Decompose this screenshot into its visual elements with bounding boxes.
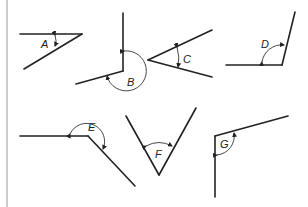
angle-label-e: E (88, 121, 96, 133)
angle-arc-c (177, 47, 179, 67)
angle-g: G (215, 116, 288, 197)
angle-label-b: B (127, 76, 134, 88)
angles-diagram: A B C D E F G (0, 0, 308, 207)
angle-f: F (126, 108, 196, 175)
angle-b: B (76, 13, 146, 91)
angle-label-f: F (155, 148, 163, 160)
angle-label-d: D (261, 38, 269, 50)
angle-c: C (148, 30, 212, 77)
angle-e: E (20, 121, 135, 186)
angle-arc-f (146, 143, 172, 147)
angle-d: D (226, 12, 295, 65)
angle-a: A (20, 34, 82, 69)
angle-label-g: G (220, 138, 229, 150)
angle-arc-a (55, 35, 56, 46)
angle-label-c: C (183, 53, 191, 65)
angle-label-a: A (40, 38, 48, 50)
